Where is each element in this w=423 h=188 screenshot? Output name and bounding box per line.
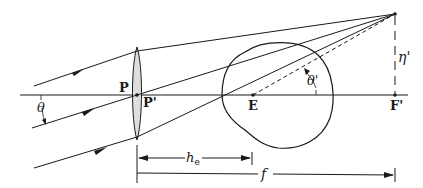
he-arrow-right: [241, 155, 251, 161]
f-arrow-right: [384, 172, 394, 178]
point-P: [135, 93, 139, 97]
label-theta: θ: [37, 100, 45, 115]
f-dim-right: [273, 174, 393, 175]
optics-diagram: P P' E F' θ θ' η' he f: [0, 0, 423, 188]
f-dim-left: [137, 173, 258, 174]
label-f: f: [260, 166, 269, 182]
label-F-prime: F': [390, 98, 403, 113]
label-eta-prime: η': [398, 49, 410, 65]
label-theta-prime: θ': [307, 73, 318, 88]
dashed-chief-ray: [253, 14, 395, 95]
he-arrow-left: [138, 155, 148, 161]
ray-bot-in: [34, 137, 137, 168]
label-h-e: he: [186, 150, 200, 167]
label-P-prime: P': [143, 95, 157, 110]
ray-arrow-top: [72, 69, 84, 76]
image-point: [393, 12, 397, 16]
point-E: [251, 93, 255, 97]
label-P: P: [119, 80, 129, 95]
ray-mid-out: [137, 14, 395, 95]
label-E: E: [248, 98, 258, 113]
ray-arrow-mid: [82, 108, 95, 116]
point-F-prime: [393, 93, 397, 97]
